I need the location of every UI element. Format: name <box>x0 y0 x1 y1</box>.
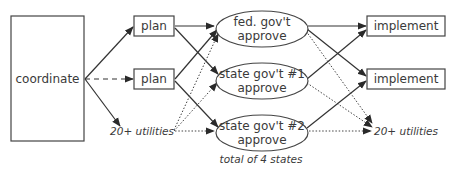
edge-state1-implement1 <box>307 30 366 79</box>
implement-2-label: implement <box>374 72 439 86</box>
plan-2-label: plan <box>141 72 167 86</box>
state2-approve-line2: approve <box>237 133 286 147</box>
edge-state2-implement2 <box>307 81 366 128</box>
node-state1-approve: state gov't #1 approve <box>216 63 308 99</box>
edge-utilities-state1 <box>174 83 217 131</box>
plan-1-label: plan <box>141 19 167 33</box>
edge-plan2-state2 <box>175 81 218 127</box>
fed-approve-line1: fed. gov't <box>234 15 291 29</box>
edge-coordinate-plan-1 <box>85 27 133 79</box>
node-implement-1: implement <box>367 16 445 36</box>
utilities-left-label: 20+ utilities <box>110 125 175 137</box>
footnote-total-states: total of 4 states <box>220 153 303 165</box>
process-flow-diagram: coordinate plan plan 20+ utilities fed. … <box>0 0 453 171</box>
edge-coordinate-utilities <box>85 79 120 126</box>
fed-approve-line2: approve <box>237 29 286 43</box>
state1-approve-line2: approve <box>237 81 286 95</box>
utilities-right-label: 20+ utilities <box>374 125 439 137</box>
state1-approve-line1: state gov't #1 <box>219 67 305 81</box>
edge-utilities-fed <box>174 34 218 130</box>
edge-fed-utilities <box>306 31 372 123</box>
node-state2-approve: state gov't #2 approve <box>216 115 308 151</box>
node-plan-1: plan <box>134 16 174 36</box>
edge-plan1-state1 <box>175 28 218 74</box>
node-fed-approve: fed. gov't approve <box>216 11 308 47</box>
node-implement-2: implement <box>367 69 445 89</box>
state2-approve-line1: state gov't #2 <box>219 119 305 133</box>
edge-plan2-fed <box>175 30 217 79</box>
coordinate-label: coordinate <box>15 72 79 86</box>
node-plan-2: plan <box>134 69 174 89</box>
node-coordinate: coordinate <box>11 16 84 141</box>
edge-fed-implement2 <box>307 29 366 76</box>
implement-1-label: implement <box>374 19 439 33</box>
